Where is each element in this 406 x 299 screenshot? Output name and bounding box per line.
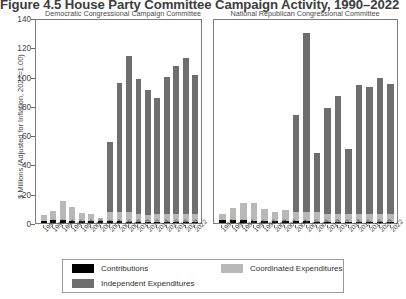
x-tick-mark bbox=[358, 225, 359, 228]
bar bbox=[324, 108, 331, 223]
bar bbox=[41, 215, 47, 223]
bar bbox=[293, 115, 300, 223]
legend-label-contributions: Contributions bbox=[101, 264, 148, 273]
bar-segment bbox=[324, 108, 331, 214]
bar-segment bbox=[154, 98, 160, 214]
x-tick-mark bbox=[327, 225, 328, 228]
bar-segment bbox=[335, 96, 342, 213]
legend-item-coordinated: Coordinated Expenditures bbox=[221, 264, 343, 273]
bar-segment bbox=[293, 115, 300, 212]
legend-item-independent: Independent Expenditures bbox=[72, 279, 194, 288]
x-tick-mark bbox=[109, 225, 110, 228]
bar bbox=[335, 96, 342, 223]
x-tick-mark bbox=[306, 225, 307, 228]
y-tick-label: 80 bbox=[7, 102, 31, 111]
legend-item-contributions: Contributions bbox=[72, 264, 148, 273]
bar bbox=[377, 78, 384, 223]
y-tick-mark bbox=[31, 48, 35, 49]
y-tick-label: 40 bbox=[7, 161, 31, 170]
x-tick-mark bbox=[90, 225, 91, 228]
x-tick-mark bbox=[316, 225, 317, 228]
y-tick-mark bbox=[31, 78, 35, 79]
bar bbox=[117, 83, 123, 223]
y-tick-label: 100 bbox=[7, 73, 31, 82]
bar-segment bbox=[126, 56, 132, 213]
bar bbox=[126, 56, 132, 223]
x-tick-mark bbox=[337, 225, 338, 228]
bar-segment bbox=[117, 83, 123, 212]
y-tick-label: 20 bbox=[7, 190, 31, 199]
bar-segment bbox=[387, 84, 394, 215]
x-tick-mark bbox=[147, 225, 148, 228]
bar-segment bbox=[183, 58, 189, 213]
y-tick-label: 140 bbox=[7, 15, 31, 24]
bar bbox=[345, 149, 352, 223]
bars-republican bbox=[214, 20, 397, 223]
y-tick-mark bbox=[31, 107, 35, 108]
legend-swatch-coordinated bbox=[221, 264, 243, 273]
bar bbox=[136, 79, 142, 223]
bar-segment bbox=[377, 78, 384, 214]
plot-panel-democratic bbox=[35, 19, 202, 224]
x-tick-mark bbox=[62, 225, 63, 228]
y-tick-mark bbox=[31, 224, 35, 225]
bar bbox=[183, 58, 189, 223]
bar bbox=[145, 90, 151, 223]
y-axis-ticks: 020406080100120140 bbox=[5, 0, 31, 299]
x-tick-mark bbox=[295, 225, 296, 228]
x-tick-mark bbox=[100, 225, 101, 228]
x-tick-mark bbox=[137, 225, 138, 228]
x-tick-mark bbox=[119, 225, 120, 228]
bar bbox=[366, 87, 373, 223]
x-tick-mark bbox=[369, 225, 370, 228]
x-tick-mark bbox=[379, 225, 380, 228]
bar bbox=[192, 75, 198, 223]
x-tick-mark bbox=[390, 225, 391, 228]
x-tick-mark bbox=[185, 225, 186, 228]
bar-segment bbox=[303, 33, 310, 211]
x-tick-mark bbox=[166, 225, 167, 228]
y-tick-label: 60 bbox=[7, 132, 31, 141]
plot-panel-republican bbox=[213, 19, 398, 224]
figure-root: Figure 4.5 House Party Committee Campaig… bbox=[0, 0, 406, 299]
panel-title-republican: National Republican Congressional Commit… bbox=[215, 9, 395, 18]
bars-democratic bbox=[36, 20, 201, 223]
bar-segment bbox=[219, 214, 226, 221]
legend-label-coordinated: Coordinated Expenditures bbox=[250, 264, 343, 273]
legend-swatch-independent bbox=[72, 279, 94, 288]
x-tick-mark bbox=[274, 225, 275, 228]
x-tick-mark bbox=[81, 225, 82, 228]
y-tick-mark bbox=[31, 19, 35, 20]
x-tick-mark bbox=[232, 225, 233, 228]
x-tick-mark bbox=[242, 225, 243, 228]
x-tick-mark bbox=[52, 225, 53, 228]
x-tick-mark bbox=[194, 225, 195, 228]
bar bbox=[387, 84, 394, 223]
x-tick-mark bbox=[253, 225, 254, 228]
bar bbox=[173, 66, 179, 223]
bar-segment bbox=[173, 66, 179, 214]
bar-segment bbox=[192, 75, 198, 214]
legend-label-independent: Independent Expenditures bbox=[101, 279, 194, 288]
bar bbox=[303, 33, 310, 223]
bar bbox=[107, 142, 113, 223]
y-tick-label: 0 bbox=[7, 220, 31, 229]
bar-segment bbox=[107, 142, 113, 212]
x-tick-mark bbox=[71, 225, 72, 228]
y-tick-mark bbox=[31, 136, 35, 137]
x-tick-mark bbox=[263, 225, 264, 228]
bar-segment bbox=[345, 149, 352, 214]
bar bbox=[154, 98, 160, 223]
bar-segment bbox=[314, 153, 321, 212]
bar-segment bbox=[164, 77, 170, 213]
y-tick-label: 120 bbox=[7, 44, 31, 53]
bar-segment bbox=[145, 90, 151, 215]
bar-segment bbox=[356, 85, 363, 214]
panel-title-democratic: Democratic Congressional Campaign Commit… bbox=[38, 9, 208, 18]
x-tick-mark bbox=[156, 225, 157, 228]
x-tick-mark bbox=[128, 225, 129, 228]
x-tick-mark bbox=[348, 225, 349, 228]
y-tick-mark bbox=[31, 165, 35, 166]
bar bbox=[164, 77, 170, 223]
legend-swatch-contributions bbox=[72, 264, 94, 273]
